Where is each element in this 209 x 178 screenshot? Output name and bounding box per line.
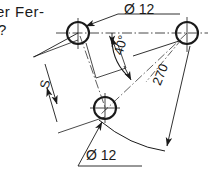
diameter-label-top: Ø 12 (124, 2, 154, 16)
truncated-text-line-1: er Fer- (0, 4, 45, 19)
extension-line-s-top (33, 40, 78, 57)
technical-drawing-canvas: er Fer- ? Ø 12 Ø 12 40° 270 S (0, 0, 209, 178)
construction-line-left-to-bottom (80, 36, 106, 110)
dimension-line-270 (167, 46, 190, 146)
extension-line-s-bottom (58, 117, 105, 133)
edge-lower-left-to-top-hole (34, 33, 78, 57)
dimension-line-s-2 (47, 88, 57, 122)
truncated-text-line-2: ? (0, 22, 6, 37)
inner-edge-upper (86, 43, 96, 78)
diameter-label-bottom: Ø 12 (86, 148, 116, 162)
leader-line-dia-top (86, 14, 118, 26)
edge-right-hole-to-inner (133, 41, 179, 56)
